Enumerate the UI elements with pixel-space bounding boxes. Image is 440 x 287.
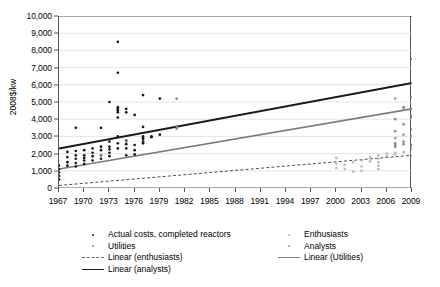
y-axis-tick-label: 2,000 [31,149,52,158]
legend-row: Actual costs, completed reactorsEnthusia… [80,229,410,241]
scatter-point [369,156,372,159]
scatter-point [74,165,77,168]
scatter-point [142,126,145,129]
scatter-point [411,147,412,150]
scatter-point [83,154,86,157]
scatter-point [59,175,60,178]
x-axis-tick-label: 1979 [150,197,169,206]
legend-label: Utilities [106,241,135,253]
x-axis-tick-label: 2000 [326,197,345,206]
legend-item[interactable]: Utilities [80,241,135,253]
y-axis-tick-label: 8,000 [31,46,52,55]
scatter-point [159,133,162,136]
x-axis-tick-label: 2009 [402,197,421,206]
legend-item[interactable]: Enthusiasts [276,229,348,241]
legend-row: Linear (enthusiasts)Linear (Utilities) [80,252,410,264]
scatter-point [74,150,77,153]
scatter-point [133,114,136,117]
scatter-point [108,145,111,148]
x-axis-tick-label: 1973 [99,197,118,206]
scatter-point [116,111,119,114]
scatter-point [108,140,111,143]
legend-item[interactable]: Actual costs, completed reactors [80,229,231,241]
scatter-point [142,94,145,97]
scatter-point [91,159,94,162]
scatter-point [125,140,128,143]
scatter-point [116,142,119,145]
x-axis-tick-mark [58,188,59,192]
legend-row: UtilitiesAnalysts [80,241,410,253]
legend-dot-icon [92,234,94,236]
scatter-point [394,97,397,100]
trendlines [59,83,412,185]
scatter-point [83,149,86,152]
scatter-point [150,136,153,139]
legend-dot-icon [288,245,290,247]
scatter-point [125,154,128,157]
scatter-point [108,101,111,104]
scatter-point [133,153,136,156]
chart-figure: 01,0002,0003,0004,0005,0006,0007,0008,00… [0,0,440,287]
chart-legend: Actual costs, completed reactorsEnthusia… [80,229,410,275]
scatter-point [66,164,69,167]
scatter-point [74,157,77,160]
scatter-point [394,145,397,148]
scatter-point [411,144,412,147]
scatter-point [116,116,119,119]
scatter-point [411,95,412,98]
scatter-point [402,140,405,143]
scatter-point [100,157,103,160]
scatter-point [394,153,397,156]
legend-item[interactable]: Linear (Utilities) [276,252,363,264]
scatter-point [59,171,60,174]
y-axis-tick-label: 9,000 [31,29,52,38]
scatter-point [66,151,69,154]
x-axis-tick-mark [159,188,160,192]
scatter-point [100,126,103,129]
scatter-point [91,147,94,150]
y-axis-tick-label: 7,000 [31,63,52,72]
scatter-point [377,164,380,167]
scatter-point [100,154,103,157]
scatter-point [59,164,60,167]
scatter-point [125,143,128,146]
scatter-point [91,151,94,154]
plot-area [58,16,411,188]
legend-item[interactable]: Linear (analysts) [80,264,171,276]
x-axis-tick-mark [260,188,261,192]
legend-marker-icon [276,245,302,247]
scatter-point [402,133,405,136]
x-axis-tick-mark [184,188,185,192]
scatter-point [142,142,145,145]
scatter-point [402,143,405,146]
x-axis-tick-label: 1994 [276,197,295,206]
legend-line-icon [278,257,300,258]
x-axis-tick-mark [285,188,286,192]
scatter-point [100,149,103,152]
scatter-point [83,163,86,166]
x-axis-tick-label: 1982 [175,197,194,206]
scatter-point [175,97,178,100]
x-axis-tick-mark [411,188,412,192]
legend-marker-icon [276,234,302,236]
scatter-point [394,137,397,140]
x-axis-tick-mark [386,188,387,192]
plot-canvas [59,16,412,188]
scatter-point [100,145,103,148]
scatter-point [133,144,136,147]
scatter-point [159,97,162,100]
legend-item[interactable]: Linear (enthusiasts) [80,252,183,264]
scatter-point [352,161,355,164]
x-axis-tick-mark [209,188,210,192]
scatter-point [133,149,136,152]
scatter-point [343,163,346,166]
legend-item[interactable]: Analysts [276,241,336,253]
legend-label: Actual costs, completed reactors [106,229,231,241]
scatter-point [352,170,355,173]
legend-label: Enthusiasts [302,229,348,241]
scatter-point [74,154,77,157]
y-axis-tick-label: 5,000 [31,98,52,107]
x-axis-tick-label: 1967 [49,197,68,206]
scatter-point [394,130,397,133]
x-axis: 1967197019731976197919821985198819911994… [58,188,411,210]
